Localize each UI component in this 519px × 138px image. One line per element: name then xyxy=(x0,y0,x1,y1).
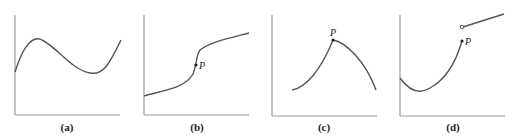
point-p-label: P xyxy=(329,27,336,38)
curve xyxy=(400,41,462,91)
caption-b: (b) xyxy=(177,121,217,133)
caption-a: (a) xyxy=(47,121,87,133)
panel-d-graph: P xyxy=(400,14,505,116)
figure-canvas: P P P xyxy=(0,0,519,138)
panel-a-graph xyxy=(15,15,121,115)
curve xyxy=(15,39,121,74)
caption-c: (c) xyxy=(304,121,344,133)
upper-segment xyxy=(463,14,504,27)
point-p-label: P xyxy=(464,36,471,47)
point-p xyxy=(460,39,463,42)
point-p-label: P xyxy=(198,60,205,71)
point-p xyxy=(331,38,334,41)
open-circle xyxy=(460,25,464,29)
curve xyxy=(292,40,376,90)
panel-b-graph: P xyxy=(144,15,249,115)
caption-d: (d) xyxy=(433,121,473,133)
panel-c-graph: P xyxy=(272,15,377,116)
point-p xyxy=(194,63,197,66)
